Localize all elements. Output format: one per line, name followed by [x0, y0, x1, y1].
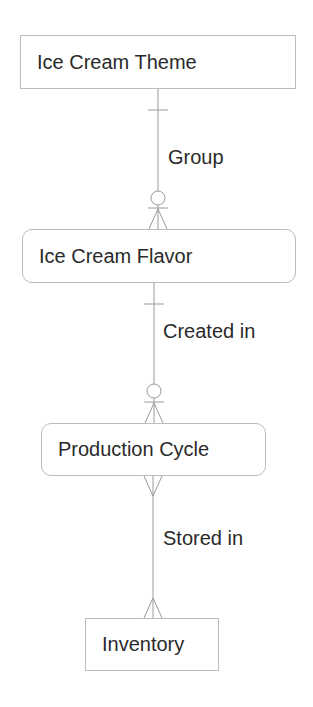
edge-stored-in	[144, 476, 162, 618]
entity-ice-cream-theme[interactable]: Ice Cream Theme	[20, 35, 296, 89]
edge-group	[148, 89, 168, 229]
entity-label: Ice Cream Theme	[37, 51, 197, 74]
entity-inventory[interactable]: Inventory	[85, 618, 219, 671]
edge-created-in	[144, 283, 164, 423]
entity-label: Ice Cream Flavor	[39, 245, 192, 268]
entity-label: Production Cycle	[58, 438, 209, 461]
relationship-label-group: Group	[168, 146, 224, 169]
entity-label: Inventory	[102, 633, 184, 656]
relationship-lines	[0, 0, 313, 707]
entity-production-cycle[interactable]: Production Cycle	[41, 423, 266, 476]
relationship-label-stored-in: Stored in	[163, 527, 243, 550]
entity-ice-cream-flavor[interactable]: Ice Cream Flavor	[22, 229, 296, 283]
relationship-label-created-in: Created in	[163, 320, 255, 343]
